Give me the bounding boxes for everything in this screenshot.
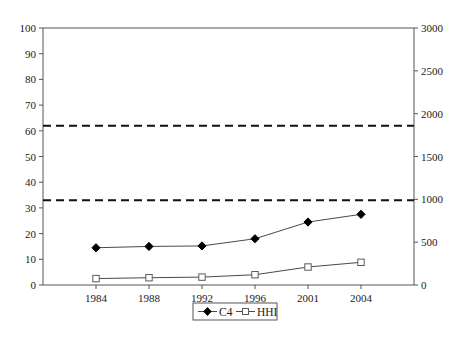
y-left-tick-label: 70: [25, 99, 37, 111]
data-point-c4: [304, 218, 312, 226]
y-left-tick-label: 30: [25, 202, 37, 214]
y-right-tick-label: 1500: [421, 151, 444, 163]
data-point-c4: [251, 235, 259, 243]
data-point-hhi: [199, 274, 205, 280]
x-tick-label: 1992: [191, 292, 213, 304]
data-point-c4: [145, 242, 153, 250]
y-right-tick-label: 500: [421, 236, 438, 248]
y-left-tick-label: 50: [25, 151, 37, 163]
legend: C4 HHI: [193, 303, 278, 320]
data-point-c4: [198, 242, 206, 250]
data-point-hhi: [93, 275, 99, 281]
series-line-c4: [96, 214, 361, 247]
y-left-tick-label: 60: [25, 125, 37, 137]
y-right-tick-label: 3000: [421, 22, 444, 34]
series-line-hhi: [96, 262, 361, 278]
y-right-tick-label: 2000: [421, 108, 444, 120]
data-point-hhi: [252, 272, 258, 278]
x-tick-label: 1984: [85, 292, 108, 304]
y-left-tick-label: 90: [25, 48, 37, 60]
data-point-hhi: [146, 275, 152, 281]
legend-marker-hhi: [243, 309, 249, 315]
y-left-tick-label: 0: [31, 279, 37, 291]
x-axis-ticks: 198419881992199620012004: [85, 285, 373, 304]
legend-label-c4: C4: [219, 306, 233, 318]
y-axis-right-ticks: 050010001500200025003000: [414, 22, 444, 291]
reference-lines: [43, 126, 414, 201]
x-tick-label: 2004: [350, 292, 373, 304]
data-point-hhi: [358, 259, 364, 265]
data-series-layer: [92, 210, 365, 282]
x-tick-label: 1996: [244, 292, 267, 304]
line-chart: 0102030405060708090100 05001000150020002…: [0, 0, 467, 338]
y-left-tick-label: 20: [25, 228, 37, 240]
x-tick-label: 2001: [297, 292, 319, 304]
y-right-tick-label: 0: [421, 279, 427, 291]
y-left-tick-label: 100: [20, 22, 37, 34]
x-tick-label: 1988: [138, 292, 161, 304]
data-point-hhi: [305, 264, 311, 270]
y-left-tick-label: 80: [25, 73, 37, 85]
y-right-tick-label: 1000: [421, 193, 444, 205]
data-point-c4: [92, 244, 100, 252]
y-left-tick-label: 40: [25, 176, 37, 188]
legend-label-hhi: HHI: [257, 306, 278, 318]
y-right-tick-label: 2500: [421, 65, 444, 77]
y-axis-left-ticks: 0102030405060708090100: [20, 22, 44, 291]
y-left-tick-label: 10: [25, 253, 37, 265]
data-point-c4: [357, 210, 365, 218]
chart-container: 0102030405060708090100 05001000150020002…: [0, 0, 467, 338]
